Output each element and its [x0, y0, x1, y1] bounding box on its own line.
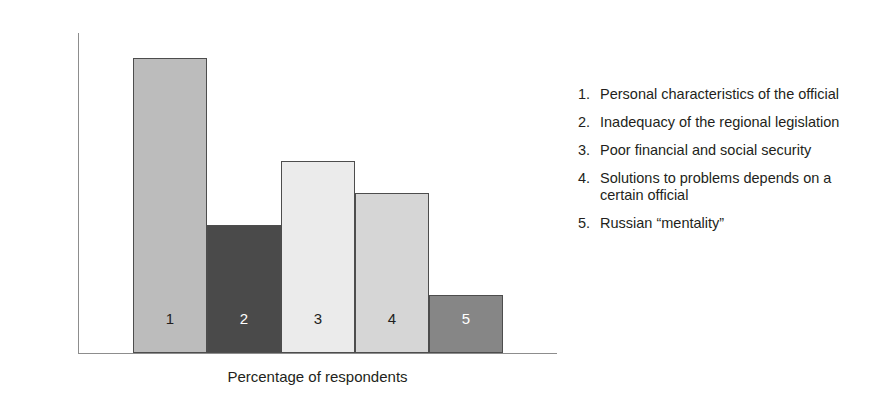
plot-area: 50% 45% 40% 35% 30% 25% 20% 15% 10% 5% 0… [0, 0, 570, 404]
bar-series: 1 2 3 4 5 [133, 33, 505, 353]
bar-value-label: 2 [208, 311, 280, 326]
legend-item-number: 3. [578, 142, 598, 159]
bar-1: 1 [133, 58, 207, 353]
bar-3: 3 [281, 161, 355, 353]
legend-item-3: 3. Poor financial and social security [578, 142, 878, 159]
bar-5: 5 [429, 295, 503, 353]
y-axis-line [78, 33, 79, 354]
legend-item-2: 2. Inadequacy of the regional legislatio… [578, 114, 878, 131]
bar-value-label: 4 [356, 311, 428, 326]
bar-4: 4 [355, 193, 429, 353]
legend-item-label: Inadequacy of the regional legislation [600, 114, 878, 131]
bar-value-label: 5 [430, 311, 502, 326]
bar-2: 2 [207, 225, 281, 353]
legend-item-number: 1. [578, 86, 598, 103]
legend-item-number: 5. [578, 215, 598, 232]
legend-item-5: 5. Russian “mentality” [578, 215, 878, 232]
legend-item-number: 2. [578, 114, 598, 131]
legend-item-label: Solutions to problems depends on a certa… [600, 170, 878, 204]
legend-item-4: 4. Solutions to problems depends on a ce… [578, 170, 878, 204]
legend-item-1: 1. Personal characteristics of the offic… [578, 86, 878, 103]
x-axis-line [78, 353, 557, 354]
bar-value-label: 3 [282, 311, 354, 326]
legend-item-number: 4. [578, 170, 598, 187]
legend-item-label: Personal characteristics of the official [600, 86, 878, 103]
bar-chart-figure: 50% 45% 40% 35% 30% 25% 20% 15% 10% 5% 0… [0, 0, 886, 404]
chart-legend: 1. Personal characteristics of the offic… [578, 86, 878, 232]
legend-item-label: Poor financial and social security [600, 142, 878, 159]
bar-value-label: 1 [134, 311, 206, 326]
x-axis-title: Percentage of respondents [78, 368, 557, 385]
legend-item-label: Russian “mentality” [600, 215, 878, 232]
